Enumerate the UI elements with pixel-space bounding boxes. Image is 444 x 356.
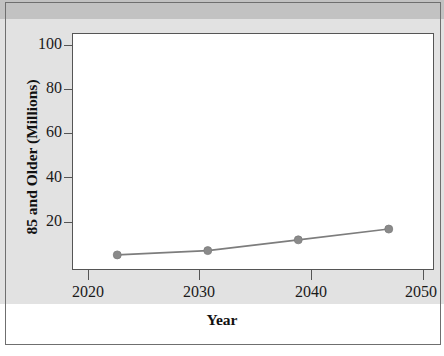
x-tick-2050 [423, 270, 424, 280]
y-tick-label-40: 40 [46, 169, 62, 185]
x-tick-2020 [88, 270, 89, 280]
y-tick-label-100: 100 [38, 36, 62, 52]
x-tick-label-2020: 2020 [53, 283, 123, 301]
y-tick-label-60: 60 [46, 124, 62, 140]
data-point-2020 [113, 251, 121, 259]
x-tick-2030 [199, 270, 200, 280]
x-tick-2040 [311, 270, 312, 280]
data-point-2040 [294, 236, 302, 244]
x-tick-label-2040: 2040 [276, 283, 346, 301]
figure-top-band [0, 0, 444, 19]
y-axis-title: 85 and Older (Millions) [23, 37, 41, 277]
x-tick-label-2030: 2030 [164, 283, 234, 301]
x-axis-title: Year [0, 311, 444, 329]
chart-figure: 85 and Older (Millions) 100 80 60 40 20 … [0, 0, 444, 356]
data-point-2050 [385, 225, 393, 233]
y-tick-label-20: 20 [46, 213, 62, 229]
data-point-2030 [204, 247, 212, 255]
series-85-and-older [72, 33, 434, 270]
series-line [117, 229, 389, 255]
x-tick-label-2050: 2050 [386, 283, 444, 301]
y-tick-label-80: 80 [46, 80, 62, 96]
